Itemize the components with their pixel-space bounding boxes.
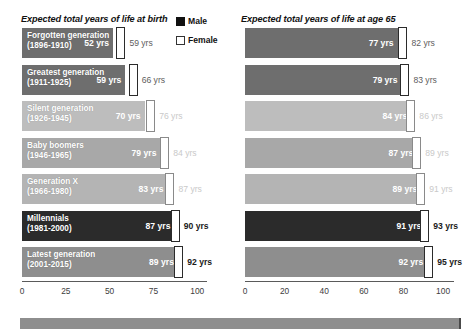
bar-row: 84 yrs86 yrs bbox=[245, 101, 453, 131]
bar-female bbox=[174, 246, 183, 278]
bar-row: 87 yrs89 yrs bbox=[245, 138, 453, 168]
plot-area-at-birth: Forgotten generation(1896-1910)52 yrs59 … bbox=[22, 28, 206, 280]
x-axis-tick-label: 50 bbox=[105, 286, 114, 296]
male-swatch-icon bbox=[176, 17, 185, 26]
bar-male: 84 yrs bbox=[245, 101, 411, 131]
bar-male: Baby boomers(1946-1965)79 yrs bbox=[22, 138, 160, 168]
x-axis-tick-label: 0 bbox=[243, 286, 248, 296]
bar-value-male: 91 yrs bbox=[396, 221, 421, 231]
x-axis-tick-label: 100 bbox=[436, 286, 450, 296]
bar-value-female: 91 yrs bbox=[429, 184, 452, 194]
x-axis-tick-label: 25 bbox=[61, 286, 70, 296]
bar-row: Millennials(1981-2000)87 yrs90 yrs bbox=[22, 211, 206, 241]
bar-category-label: Silent generation(1926-1945) bbox=[27, 104, 93, 124]
bar-value-male: 83 yrs bbox=[139, 184, 164, 194]
bar-value-female: 92 yrs bbox=[187, 257, 212, 267]
bar-value-male: 79 yrs bbox=[373, 75, 398, 85]
bar-male: 89 yrs bbox=[245, 174, 421, 204]
bar-value-female: 59 yrs bbox=[129, 38, 152, 48]
bar-value-female: 90 yrs bbox=[184, 221, 209, 231]
bar-value-male: 87 yrs bbox=[388, 148, 413, 158]
bar-category-label: Greatest generation(1911-1925) bbox=[27, 68, 104, 88]
legend-label-male: Male bbox=[188, 16, 207, 26]
bar-value-female: 95 yrs bbox=[437, 257, 462, 267]
bar-category-label: Baby boomers(1946-1965) bbox=[27, 141, 84, 161]
x-axis-tick-label: 60 bbox=[359, 286, 368, 296]
bar-female bbox=[406, 100, 415, 132]
bar-value-female: 82 yrs bbox=[411, 38, 434, 48]
bar-value-female: 86 yrs bbox=[419, 111, 442, 121]
bar-row: 77 yrs82 yrs bbox=[245, 28, 453, 58]
bar-row: Latest generation(2001-2015)89 yrs92 yrs bbox=[22, 247, 206, 277]
bar-value-female: 89 yrs bbox=[425, 148, 448, 158]
x-axis-at-age-65 bbox=[245, 281, 454, 282]
bar-row: Baby boomers(1946-1965)79 yrs84 yrs bbox=[22, 138, 206, 168]
bar-value-male: 84 yrs bbox=[383, 111, 408, 121]
panel-title-at-birth: Expected total years of life at birth bbox=[21, 14, 167, 24]
bar-value-male: 79 yrs bbox=[132, 148, 157, 158]
bar-value-female: 76 yrs bbox=[159, 111, 182, 121]
x-axis-tick-label: 20 bbox=[280, 286, 289, 296]
bar-value-male: 87 yrs bbox=[146, 221, 171, 231]
bar-female bbox=[398, 27, 407, 59]
bar-category-label: Millennials(1981-2000) bbox=[27, 214, 72, 234]
bottom-decoration-strip bbox=[20, 318, 461, 329]
bar-row: 92 yrs95 yrs bbox=[245, 247, 453, 277]
bar-category-label: Latest generation(2001-2015) bbox=[27, 250, 95, 270]
bar-value-male: 77 yrs bbox=[369, 38, 394, 48]
bar-row: Silent generation(1926-1945)70 yrs76 yrs bbox=[22, 101, 206, 131]
bar-value-male: 92 yrs bbox=[398, 257, 423, 267]
bar-female bbox=[116, 27, 125, 59]
x-axis-tick-label: 0 bbox=[20, 286, 25, 296]
bar-male: Millennials(1981-2000)87 yrs bbox=[22, 211, 174, 241]
bar-male: 77 yrs bbox=[245, 28, 398, 58]
bar-female bbox=[165, 173, 174, 205]
bar-value-male: 89 yrs bbox=[392, 184, 417, 194]
legend-item-male: Male bbox=[176, 14, 234, 28]
bar-value-female: 66 yrs bbox=[142, 75, 165, 85]
bar-male: Greatest generation(1911-1925)59 yrs bbox=[22, 65, 125, 95]
bar-female bbox=[424, 246, 433, 278]
bar-value-male: 59 yrs bbox=[97, 75, 122, 85]
bar-value-male: 89 yrs bbox=[149, 257, 174, 267]
bar-male: Silent generation(1926-1945)70 yrs bbox=[22, 101, 145, 131]
bar-value-female: 84 yrs bbox=[173, 148, 196, 158]
panel-title-at-age-65: Expected total years of life at age 65 bbox=[241, 14, 396, 24]
bar-female bbox=[400, 64, 409, 96]
bar-female bbox=[146, 100, 155, 132]
bar-value-female: 93 yrs bbox=[433, 221, 458, 231]
bar-female bbox=[416, 173, 425, 205]
bar-row: Greatest generation(1911-1925)59 yrs66 y… bbox=[22, 65, 206, 95]
bar-male: Forgotten generation(1896-1910)52 yrs bbox=[22, 28, 113, 58]
bar-female bbox=[160, 137, 169, 169]
x-axis-tick-label: 80 bbox=[399, 286, 408, 296]
bar-female bbox=[171, 210, 180, 242]
bar-female bbox=[412, 137, 421, 169]
x-axis-tick-label: 75 bbox=[149, 286, 158, 296]
x-axis-tick-label: 40 bbox=[320, 286, 329, 296]
bar-male: 79 yrs bbox=[245, 65, 401, 95]
bar-male: Generation X(1966-1980)83 yrs bbox=[22, 174, 167, 204]
bar-row: 91 yrs93 yrs bbox=[245, 211, 453, 241]
bar-value-male: 70 yrs bbox=[116, 111, 141, 121]
bar-male: Latest generation(2001-2015)89 yrs bbox=[22, 247, 178, 277]
chart-panel-at-birth: Expected total years of life at birth Ma… bbox=[0, 0, 236, 330]
bar-male: 91 yrs bbox=[245, 211, 425, 241]
bar-female bbox=[129, 64, 138, 96]
bar-category-label: Generation X(1966-1980) bbox=[27, 177, 78, 197]
x-axis-at-birth bbox=[22, 281, 207, 282]
plot-area-at-age-65: 77 yrs82 yrs79 yrs83 yrs84 yrs86 yrs87 y… bbox=[245, 28, 453, 280]
bar-male: 92 yrs bbox=[245, 247, 427, 277]
bar-value-male: 52 yrs bbox=[84, 38, 109, 48]
bar-row: Generation X(1966-1980)83 yrs87 yrs bbox=[22, 174, 206, 204]
bar-female bbox=[420, 210, 429, 242]
bar-value-female: 83 yrs bbox=[413, 75, 436, 85]
bar-row: 79 yrs83 yrs bbox=[245, 65, 453, 95]
bar-row: Forgotten generation(1896-1910)52 yrs59 … bbox=[22, 28, 206, 58]
bar-row: 89 yrs91 yrs bbox=[245, 174, 453, 204]
bar-male: 87 yrs bbox=[245, 138, 417, 168]
bar-value-female: 87 yrs bbox=[178, 184, 201, 194]
x-axis-tick-label: 100 bbox=[190, 286, 204, 296]
